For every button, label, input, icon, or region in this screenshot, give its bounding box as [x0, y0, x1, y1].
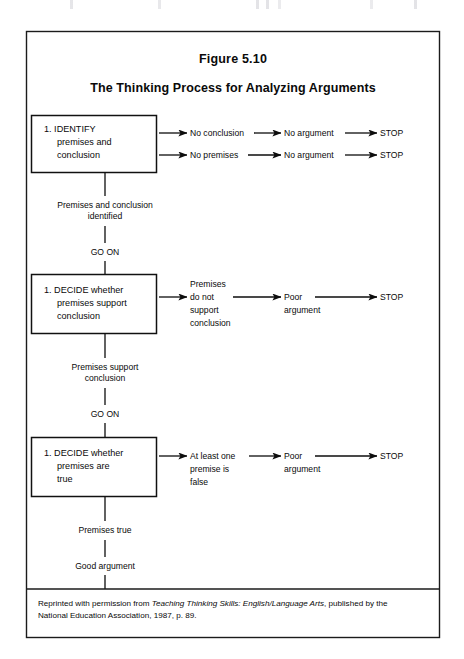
support-outcome-line-1: Premises support — [72, 362, 139, 372]
identify-line-1: 1. IDENTIFY — [44, 124, 96, 134]
identify-outcome-line-1: Premises and conclusion — [57, 200, 153, 210]
final-outcome-label: Good argument — [75, 561, 135, 571]
decide-true-line-2: premises are — [57, 461, 110, 471]
identify-a-node-1: No conclusion — [190, 128, 244, 138]
decide-support-branch-2-line-1: Poor — [284, 292, 302, 302]
decide-support-line-2: premises support — [57, 298, 127, 308]
figure-number: Figure 5.10 — [199, 52, 267, 66]
decide-support-branch-1-line-2: do not — [190, 292, 215, 302]
decide-support-branch-1-line-1: Premises — [190, 279, 226, 289]
flowchart-figure: Figure 5.10 The Thinking Process for Ana… — [0, 0, 464, 659]
identify-b-node-2: No argument — [284, 150, 334, 160]
decide-support-line-3: conclusion — [57, 311, 100, 321]
decide-true-branch-1-line-1: At least one — [190, 451, 236, 461]
decide-true-line-3: true — [57, 474, 73, 484]
decide-true-branch-3-line-1: STOP — [380, 451, 404, 461]
identify-outcome-line-2: identified — [88, 211, 123, 221]
identify-b-node-1: No premises — [190, 150, 238, 160]
decide-true-branch-1-line-3: false — [190, 477, 208, 487]
decide-support-branch-1-line-4: conclusion — [190, 318, 231, 328]
decide-support-branch-2-line-2: argument — [284, 305, 321, 315]
identify-a-node-3: STOP — [380, 128, 404, 138]
credit-line-2: National Education Association, 1987, p.… — [38, 611, 196, 620]
support-continue-label: GO ON — [91, 409, 120, 419]
credit-source-title: Teaching Thinking Skills: English/Langua… — [152, 599, 324, 608]
support-outcome-line-2: conclusion — [85, 373, 126, 383]
identify-a-node-2: No argument — [284, 128, 334, 138]
figure-page: Figure 5.10 The Thinking Process for Ana… — [0, 0, 464, 659]
decide-true-branch-2-line-2: argument — [284, 464, 321, 474]
decide-support-line-1: 1. DECIDE whether — [44, 285, 123, 295]
decide-support-branch-3-line-1: STOP — [380, 292, 404, 302]
credit-suffix: , published by the — [324, 599, 388, 608]
decide-true-line-1: 1. DECIDE whether — [44, 448, 123, 458]
identify-continue-label: GO ON — [91, 247, 120, 257]
identify-b-node-3: STOP — [380, 150, 404, 160]
credit-line-1: Reprinted with permission from Teaching … — [38, 599, 388, 608]
decide-true-branch-2-line-1: Poor — [284, 451, 302, 461]
true-outcome-line-1: Premises true — [78, 525, 131, 535]
identify-line-3: conclusion — [57, 150, 100, 160]
decide-support-branch-1-line-3: support — [190, 305, 219, 315]
credit-prefix: Reprinted with permission from — [38, 599, 152, 608]
decide-true-branch-1-line-2: premise is — [190, 464, 229, 474]
identify-line-2: premises and — [57, 137, 112, 147]
figure-title: The Thinking Process for Analyzing Argum… — [90, 81, 375, 95]
